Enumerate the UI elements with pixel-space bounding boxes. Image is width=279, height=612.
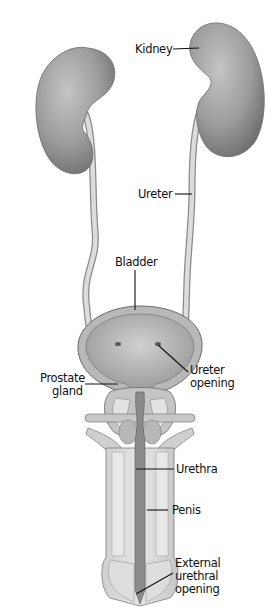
urinary-system-illustration — [0, 0, 279, 612]
label-kidney: Kidney — [135, 43, 172, 55]
label-external-line2: urethral — [175, 570, 218, 582]
label-bladder: Bladder — [115, 256, 157, 268]
left-kidney — [36, 47, 115, 173]
label-ureter: Ureter — [138, 188, 172, 200]
right-kidney — [190, 23, 265, 157]
label-external-line1: External — [175, 557, 220, 569]
label-prostate-line1: Prostate — [40, 372, 85, 384]
label-penis: Penis — [172, 504, 201, 516]
label-external-line3: opening — [175, 583, 219, 595]
label-ureter-opening-line1: Ureter — [190, 364, 224, 376]
label-urethra: Urethra — [176, 463, 217, 475]
label-prostate-line2: gland — [52, 385, 83, 397]
label-ureter-opening-line2: opening — [190, 377, 234, 389]
